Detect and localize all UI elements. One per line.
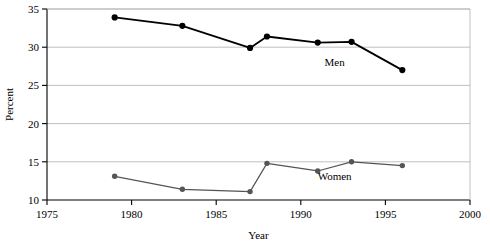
y-tick-label-10: 10 <box>28 194 40 206</box>
data-point-men-1996 <box>399 67 405 73</box>
x-axis-title: Year <box>248 229 269 241</box>
chart-container: 101520253035197519801985199019952000Year… <box>0 0 490 244</box>
y-tick-label-20: 20 <box>28 118 40 130</box>
y-tick-label-25: 25 <box>28 79 40 91</box>
data-point-women-1993 <box>349 159 354 164</box>
data-point-men-1979 <box>112 14 118 20</box>
series-men: Men <box>112 14 406 73</box>
data-point-women-1983 <box>180 187 185 192</box>
x-tick-label-1975: 1975 <box>36 208 59 220</box>
data-point-men-1987 <box>247 45 253 51</box>
series-line-women <box>115 162 403 192</box>
data-point-men-1988 <box>264 33 270 39</box>
y-tick-label-15: 15 <box>28 156 40 168</box>
series-label-men: Men <box>325 56 346 68</box>
y-tick-label-30: 30 <box>28 41 40 53</box>
x-tick-label-2000: 2000 <box>459 208 482 220</box>
data-point-men-1983 <box>179 23 185 29</box>
data-point-women-1996 <box>400 163 405 168</box>
data-point-men-1991 <box>315 40 321 46</box>
x-tick-label-1990: 1990 <box>290 208 313 220</box>
series-women: Women <box>112 159 405 194</box>
x-tick-label-1980: 1980 <box>121 208 144 220</box>
x-tick-label-1985: 1985 <box>205 208 228 220</box>
data-point-women-1987 <box>247 189 252 194</box>
series-label-women: Women <box>318 170 352 182</box>
y-tick-label-35: 35 <box>28 3 40 15</box>
data-point-women-1988 <box>264 161 269 166</box>
data-point-men-1993 <box>348 39 354 45</box>
series-line-men <box>115 17 403 70</box>
data-point-women-1979 <box>112 174 117 179</box>
y-axis-title: Percent <box>3 88 15 121</box>
x-tick-label-1995: 1995 <box>374 208 397 220</box>
line-chart: 101520253035197519801985199019952000Year… <box>0 0 490 244</box>
